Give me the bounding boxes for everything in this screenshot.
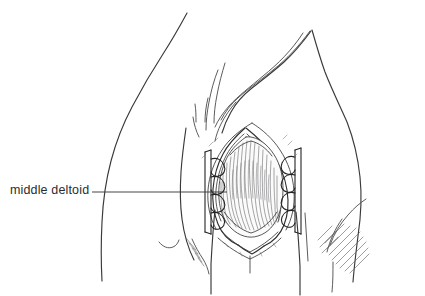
label-middle-deltoid: middle deltoid bbox=[10, 184, 89, 197]
right-self-retaining-retractor bbox=[281, 148, 301, 234]
medical-illustration: middle deltoid bbox=[0, 0, 425, 296]
axilla-shading bbox=[186, 238, 204, 266]
triceps-shading bbox=[318, 199, 369, 292]
chest-and-axilla-contour bbox=[159, 128, 209, 274]
anatomy-line-drawing bbox=[0, 0, 425, 296]
neck-and-trapezius-contour bbox=[101, 13, 187, 281]
clavicle-and-acromion-folds bbox=[193, 31, 310, 141]
